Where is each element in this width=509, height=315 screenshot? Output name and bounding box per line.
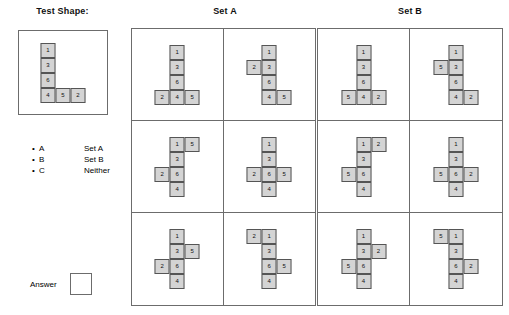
shape-grid: 513624 bbox=[434, 229, 479, 289]
set-b-cell-6[interactable]: 513624 bbox=[410, 213, 502, 305]
shape-b5: 132564 bbox=[341, 229, 386, 289]
shape-a4: 132654 bbox=[247, 137, 292, 197]
net-square-3: 3 bbox=[449, 244, 464, 259]
set-b-cell-2[interactable]: 153642 bbox=[410, 29, 502, 121]
net-square-1: 1 bbox=[170, 229, 185, 244]
answer-label: Answer bbox=[30, 280, 57, 289]
shape-grid: 153642 bbox=[434, 45, 479, 105]
net-square-1: 1 bbox=[41, 43, 56, 58]
legend-value-a: Set A bbox=[84, 143, 103, 154]
shape-a3: 153264 bbox=[155, 137, 200, 197]
net-square-3: 3 bbox=[170, 152, 185, 167]
net-square-5: 5 bbox=[341, 167, 356, 182]
net-square-6: 6 bbox=[262, 167, 277, 182]
net-square-5: 5 bbox=[185, 244, 200, 259]
shape-grid: 135624 bbox=[434, 137, 479, 197]
net-square-4: 4 bbox=[449, 182, 464, 197]
net-square-5: 5 bbox=[277, 167, 292, 182]
set-b-cell-3[interactable]: 123564 bbox=[318, 121, 410, 213]
shape-a2: 123645 bbox=[247, 45, 292, 105]
net-square-6: 6 bbox=[356, 259, 371, 274]
test-shape-heading: Test Shape: bbox=[10, 6, 115, 16]
shape-grid: 132654 bbox=[247, 137, 292, 197]
legend-key-b: B bbox=[39, 154, 84, 165]
shape-b2: 153642 bbox=[434, 45, 479, 105]
set-a-grid: 136245 123645 153264 132654 1352 bbox=[132, 29, 315, 305]
shape-grid: 136542 bbox=[341, 45, 386, 105]
net-square-5: 5 bbox=[185, 137, 200, 152]
legend-value-c: Neither bbox=[84, 165, 110, 176]
net-square-1: 1 bbox=[170, 137, 185, 152]
net-square-3: 3 bbox=[170, 244, 185, 259]
net-square-1: 1 bbox=[356, 137, 371, 152]
set-a-heading: Set A bbox=[130, 6, 320, 16]
net-square-2: 2 bbox=[371, 90, 386, 105]
set-a-cell-3[interactable]: 153264 bbox=[132, 121, 224, 213]
net-square-2: 2 bbox=[247, 167, 262, 182]
net-square-4: 4 bbox=[170, 90, 185, 105]
net-square-4: 4 bbox=[356, 182, 371, 197]
answer-input-box[interactable] bbox=[70, 273, 92, 295]
net-square-1: 1 bbox=[449, 137, 464, 152]
net-square-5: 5 bbox=[434, 229, 449, 244]
net-square-2: 2 bbox=[464, 259, 479, 274]
legend-value-b: Set B bbox=[84, 154, 104, 165]
shape-a6: 213654 bbox=[247, 229, 292, 289]
net-square-2: 2 bbox=[247, 229, 262, 244]
net-square-2: 2 bbox=[464, 167, 479, 182]
shape-grid: 135264 bbox=[155, 229, 200, 289]
shape-b4: 135624 bbox=[434, 137, 479, 197]
test-shape-panel: 136452 bbox=[18, 30, 108, 115]
net-square-1: 1 bbox=[262, 229, 277, 244]
net-square-1: 1 bbox=[262, 45, 277, 60]
set-a-cell-4[interactable]: 132654 bbox=[224, 121, 316, 213]
legend: • A Set A • B Set B • C Neither bbox=[32, 143, 110, 176]
set-a-cell-2[interactable]: 123645 bbox=[224, 29, 316, 121]
net-square-3: 3 bbox=[356, 244, 371, 259]
net-square-6: 6 bbox=[262, 259, 277, 274]
shape-grid: 132564 bbox=[341, 229, 386, 289]
set-a-cell-1[interactable]: 136245 bbox=[132, 29, 224, 121]
net-square-4: 4 bbox=[170, 182, 185, 197]
net-square-6: 6 bbox=[170, 259, 185, 274]
net-square-1: 1 bbox=[356, 229, 371, 244]
net-square-2: 2 bbox=[155, 259, 170, 274]
net-square-1: 1 bbox=[449, 229, 464, 244]
net-square-2: 2 bbox=[155, 90, 170, 105]
set-b-cell-4[interactable]: 135624 bbox=[410, 121, 502, 213]
shape-grid: 136452 bbox=[41, 43, 86, 103]
net-square-6: 6 bbox=[449, 75, 464, 90]
net-square-5: 5 bbox=[341, 259, 356, 274]
bullet-icon: • bbox=[32, 165, 39, 176]
answer-area: Answer bbox=[30, 273, 92, 295]
net-square-1: 1 bbox=[449, 45, 464, 60]
net-square-3: 3 bbox=[449, 60, 464, 75]
net-square-2: 2 bbox=[247, 60, 262, 75]
net-square-6: 6 bbox=[356, 75, 371, 90]
net-square-6: 6 bbox=[356, 167, 371, 182]
shape-grid: 136245 bbox=[155, 45, 200, 105]
net-square-6: 6 bbox=[449, 259, 464, 274]
net-square-3: 3 bbox=[170, 60, 185, 75]
net-square-5: 5 bbox=[277, 259, 292, 274]
net-square-2: 2 bbox=[71, 88, 86, 103]
legend-item-a: • A Set A bbox=[32, 143, 110, 154]
net-square-2: 2 bbox=[371, 137, 386, 152]
net-square-4: 4 bbox=[449, 274, 464, 289]
net-square-6: 6 bbox=[449, 167, 464, 182]
set-a-cell-6[interactable]: 213654 bbox=[224, 213, 316, 305]
net-square-4: 4 bbox=[41, 88, 56, 103]
legend-item-b: • B Set B bbox=[32, 154, 110, 165]
net-square-5: 5 bbox=[277, 90, 292, 105]
net-square-6: 6 bbox=[170, 167, 185, 182]
net-square-3: 3 bbox=[262, 244, 277, 259]
set-a-panel: 136245 123645 153264 132654 1352 bbox=[131, 28, 316, 306]
legend-key-c: C bbox=[39, 165, 84, 176]
net-square-1: 1 bbox=[262, 137, 277, 152]
set-a-cell-5[interactable]: 135264 bbox=[132, 213, 224, 305]
set-b-cell-5[interactable]: 132564 bbox=[318, 213, 410, 305]
net-square-3: 3 bbox=[41, 58, 56, 73]
set-b-cell-1[interactable]: 136542 bbox=[318, 29, 410, 121]
net-square-4: 4 bbox=[262, 274, 277, 289]
puzzle-root: Test Shape: Set A Set B 136452 136245 12… bbox=[0, 0, 509, 315]
